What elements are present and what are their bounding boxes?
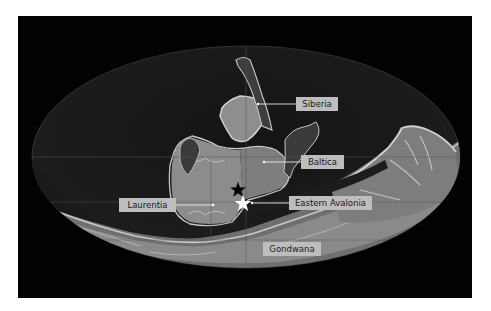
dot-eastern-avalonia <box>251 202 253 204</box>
dot-baltica <box>263 161 265 163</box>
dot-laurentia <box>212 204 214 206</box>
label-eastern-avalonia: Eastern Avalonia <box>289 196 372 210</box>
label-gondwana: Gondwana <box>263 242 321 256</box>
paleogeographic-map <box>0 0 491 311</box>
label-siberia: Siberia <box>296 97 338 111</box>
label-laurentia: Laurentia <box>119 198 176 212</box>
label-baltica: Baltica <box>301 155 344 169</box>
dot-siberia <box>257 103 259 105</box>
